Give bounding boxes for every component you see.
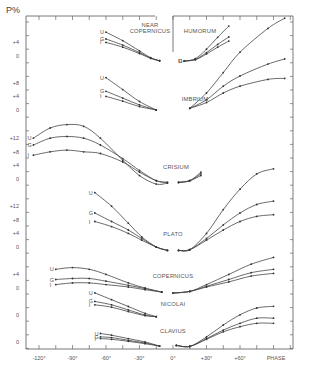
data-point <box>239 51 241 53</box>
curve-U <box>95 193 168 251</box>
data-point <box>111 299 113 301</box>
data-point <box>72 267 74 269</box>
curve-G <box>179 201 274 251</box>
data-point <box>206 286 208 288</box>
data-point <box>150 57 152 59</box>
y-tick-label: 0 <box>16 176 19 182</box>
data-point <box>222 224 224 226</box>
x-tick-label: +30° <box>201 355 213 361</box>
data-point <box>139 104 141 106</box>
data-point <box>189 291 191 293</box>
data-point <box>55 284 57 286</box>
y-tick-label: +12 <box>10 203 19 209</box>
data-point <box>127 311 129 313</box>
curve-I <box>176 323 273 347</box>
data-point <box>122 159 124 161</box>
x-tick-label: -90° <box>67 355 77 361</box>
data-point <box>141 236 143 238</box>
x-axis-labels: -120°-90°-60°-30°0°+30°+60°PHASE <box>32 355 285 361</box>
data-point <box>172 292 174 294</box>
curve-I <box>179 215 274 251</box>
curves: UGIUGIUGIUGIUGIUGIUGIUGI <box>27 17 285 347</box>
data-point <box>105 280 107 282</box>
data-point <box>105 274 107 276</box>
data-point <box>228 279 230 281</box>
data-point <box>267 63 269 65</box>
data-point <box>144 312 146 314</box>
data-point <box>122 158 124 160</box>
data-point <box>100 137 102 139</box>
curve-G <box>176 318 273 347</box>
panel-plato: UGI <box>89 168 275 251</box>
data-point <box>111 304 113 306</box>
data-point <box>122 40 124 42</box>
data-point <box>167 182 169 184</box>
data-point <box>273 305 275 307</box>
curve-I <box>33 150 167 182</box>
data-point <box>127 340 129 342</box>
data-point <box>122 97 124 99</box>
data-point <box>66 149 68 151</box>
curve-U <box>176 306 273 347</box>
data-point <box>33 154 35 156</box>
data-point <box>206 338 208 340</box>
data-point <box>55 268 57 270</box>
panel-title: NICOLAI <box>161 301 186 307</box>
data-point <box>144 289 146 291</box>
data-point <box>94 221 96 223</box>
data-point <box>66 124 68 126</box>
y-tick-label: 0 <box>16 53 19 59</box>
data-point <box>111 205 113 207</box>
data-point <box>178 182 180 184</box>
data-point <box>105 284 107 286</box>
data-point <box>155 109 157 111</box>
y-tick-label: +4 <box>13 162 19 168</box>
curve-G <box>95 213 168 250</box>
y-tick-label: +8 <box>13 217 19 223</box>
data-point <box>239 221 241 223</box>
data-point <box>256 173 258 175</box>
data-point <box>139 106 141 108</box>
data-point <box>217 46 219 48</box>
data-point <box>189 249 191 251</box>
data-point <box>33 144 35 146</box>
data-point <box>100 338 102 340</box>
data-point <box>217 36 219 38</box>
data-point <box>206 233 208 235</box>
panel-title: COPERNICUS <box>130 28 171 34</box>
curve-G <box>33 137 167 183</box>
data-point <box>239 326 241 328</box>
data-point <box>222 85 224 87</box>
data-point <box>94 304 96 306</box>
series-label-U: U <box>89 190 93 196</box>
data-point <box>94 292 96 294</box>
data-point <box>273 268 275 270</box>
data-point <box>111 337 113 339</box>
data-point <box>33 137 35 139</box>
x-tick-label: +60° <box>234 355 246 361</box>
data-point <box>139 50 141 52</box>
data-point <box>239 85 241 87</box>
data-point <box>127 233 129 235</box>
data-point <box>141 239 143 241</box>
data-point <box>100 153 102 155</box>
data-point <box>127 229 129 231</box>
data-point <box>139 171 141 173</box>
x-tick-label: -120° <box>32 355 45 361</box>
panel-crisium: UGI <box>27 124 201 185</box>
data-point <box>127 282 129 284</box>
data-point <box>49 137 51 139</box>
data-point <box>200 171 202 173</box>
y-tick-label: +8 <box>13 80 19 86</box>
data-point <box>228 25 230 27</box>
data-point <box>189 180 191 182</box>
data-point <box>127 306 129 308</box>
data-point <box>217 44 219 46</box>
data-point <box>155 316 157 318</box>
data-point <box>200 175 202 177</box>
data-point <box>284 58 286 60</box>
data-point <box>222 72 224 74</box>
data-point <box>100 333 102 335</box>
data-point <box>239 188 241 190</box>
data-point <box>122 46 124 48</box>
